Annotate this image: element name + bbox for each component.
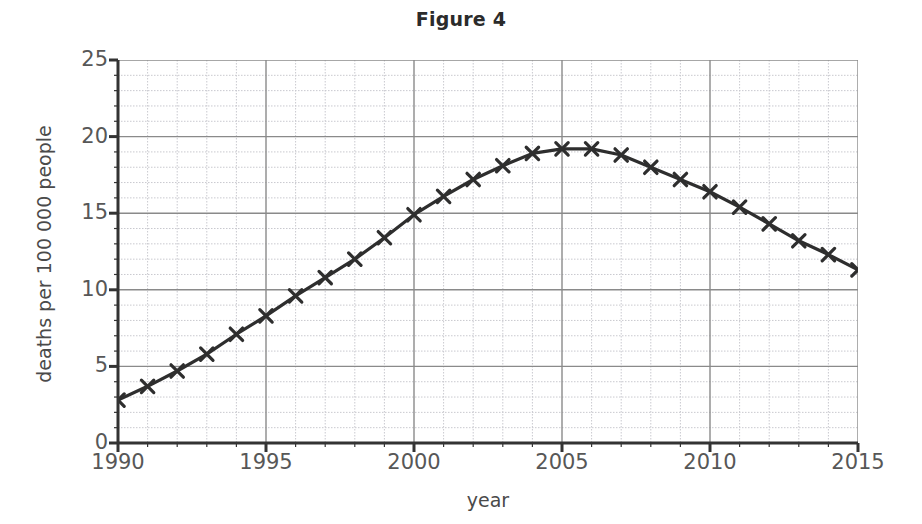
x-tick-label-1990: 1990 [63,452,173,473]
x-tick-label-2005: 2005 [507,452,617,473]
y-tick-label-15: 15 [48,202,108,223]
x-tick-label-1995: 1995 [211,452,321,473]
x-tick-label-2000: 2000 [359,452,469,473]
y-axis-title: deaths per 100 000 people [33,104,55,404]
y-tick-label-20: 20 [48,126,108,147]
y-tick-label-25: 25 [48,49,108,70]
y-tick-label-5: 5 [48,355,108,376]
chart-axis-spines [100,50,880,460]
y-tick-label-10: 10 [48,279,108,300]
x-tick-label-2010: 2010 [655,452,765,473]
figure-container: Figure 4 0510152025 19901995200020052010… [0,0,922,524]
x-tick-label-2015: 2015 [803,452,913,473]
x-axis-title: year [118,489,858,511]
chart-title: Figure 4 [0,8,922,30]
x-axis-tick-labels: 199019952000200520102015 [0,452,922,486]
